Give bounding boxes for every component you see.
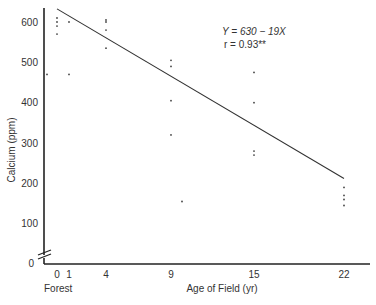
y-tick-label: 0	[28, 258, 34, 269]
data-point	[170, 134, 172, 136]
forest-label: Forest	[44, 283, 73, 294]
data-point	[170, 59, 172, 61]
correlation-coefficient: r = 0.93**	[224, 39, 266, 50]
data-point	[68, 74, 70, 76]
data-points	[46, 17, 345, 206]
x-tick-label: 0	[54, 269, 60, 280]
y-tick-label: 200	[21, 178, 38, 189]
y-tick-label: 600	[21, 17, 38, 28]
x-tick-label: 1	[66, 269, 72, 280]
data-point	[343, 205, 345, 207]
regression-equation: Y = 630 − 19X	[222, 26, 286, 37]
data-point	[105, 29, 107, 31]
data-point	[105, 47, 107, 49]
x-tick-label: 4	[103, 269, 109, 280]
y-tick-label: 100	[21, 218, 38, 229]
data-point	[56, 25, 58, 27]
data-point	[343, 195, 345, 197]
y-axis-label: Calcium (ppm)	[6, 117, 17, 182]
data-point	[46, 74, 48, 76]
data-point	[68, 21, 70, 23]
y-tick-label: 500	[21, 57, 38, 68]
x-axis-label: Age of Field (yr)	[186, 283, 257, 294]
x-tick-labels: 01491522	[54, 269, 350, 280]
data-point	[170, 100, 172, 102]
data-point	[56, 21, 58, 23]
x-tick-label: 15	[248, 269, 260, 280]
data-point	[343, 199, 345, 201]
x-tick-label: 22	[338, 269, 350, 280]
data-point	[181, 201, 183, 203]
data-point	[343, 187, 345, 189]
y-tick-label: 300	[21, 138, 38, 149]
data-point	[105, 19, 107, 21]
regression-line	[57, 9, 344, 179]
data-point	[56, 17, 58, 19]
data-point	[253, 102, 255, 104]
data-point	[170, 66, 172, 68]
x-tick-label: 9	[168, 269, 174, 280]
data-point	[56, 33, 58, 35]
data-point	[105, 21, 107, 23]
data-point	[253, 154, 255, 156]
y-tick-labels: 0100200300400500600	[21, 17, 38, 270]
data-point	[253, 72, 255, 74]
data-point	[253, 150, 255, 152]
scatter-chart: 0100200300400500600 01491522 Calcium (pp…	[0, 0, 376, 305]
y-tick-label: 400	[21, 97, 38, 108]
